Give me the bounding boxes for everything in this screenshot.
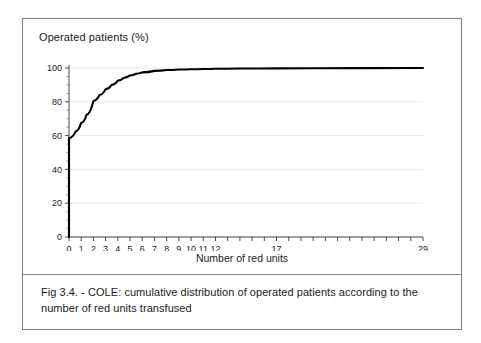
svg-text:80: 80: [52, 97, 62, 107]
svg-text:40: 40: [52, 165, 62, 175]
svg-text:12: 12: [210, 244, 220, 252]
svg-text:2: 2: [91, 244, 96, 252]
svg-text:100: 100: [47, 63, 62, 73]
svg-text:29: 29: [418, 244, 428, 252]
svg-text:8: 8: [164, 244, 169, 252]
chart-plot: 020406080100 01234567891011121729: [23, 19, 461, 251]
svg-text:7: 7: [152, 244, 157, 252]
caption-divider: [23, 274, 461, 275]
svg-text:3: 3: [103, 244, 108, 252]
svg-text:9: 9: [176, 244, 181, 252]
figure-frame: Operated patients (%) 020406080100 01234…: [22, 18, 462, 330]
chart-region: Operated patients (%) 020406080100 01234…: [23, 19, 461, 269]
x-tick-group: 01234567891011121729: [66, 237, 428, 251]
svg-text:0: 0: [57, 232, 62, 242]
x-axis-title: Number of red units: [23, 252, 461, 264]
gridlines-group: [69, 68, 423, 237]
svg-text:4: 4: [115, 244, 120, 252]
svg-text:20: 20: [52, 198, 62, 208]
y-tick-group: 020406080100: [47, 63, 69, 242]
data-series-line: [69, 68, 423, 237]
svg-text:6: 6: [140, 244, 145, 252]
svg-text:0: 0: [66, 244, 71, 252]
svg-text:60: 60: [52, 131, 62, 141]
svg-text:10: 10: [186, 244, 196, 252]
svg-text:1: 1: [79, 244, 84, 252]
svg-text:17: 17: [272, 244, 282, 252]
svg-text:11: 11: [199, 244, 208, 252]
svg-text:5: 5: [128, 244, 133, 252]
figure-caption: Fig 3.4. - COLE: cumulative distribution…: [41, 285, 445, 316]
